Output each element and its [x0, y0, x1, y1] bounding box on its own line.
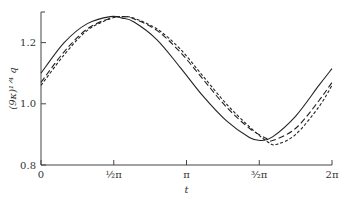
x-tick-label: ½π	[106, 169, 123, 180]
y-tick-label: 1.0	[20, 98, 36, 109]
y-tick-label: 1.2	[20, 37, 36, 48]
x-tick-label: 0	[38, 169, 44, 180]
data-series	[41, 16, 332, 145]
y-axis-label: (9κ)¹ᐟ⁴ q	[7, 67, 18, 109]
y-tick-label: 0.8	[20, 160, 36, 171]
x-tick-label: ³⁄₂π	[251, 169, 268, 180]
series-long-dash	[41, 16, 332, 141]
axis-labels: 0.81.01.20½ππ³⁄₂π2πt(9κ)¹ᐟ⁴ q	[7, 37, 339, 195]
series-solid	[41, 16, 332, 140]
x-axis-label: t	[184, 184, 189, 195]
series-short-dash	[41, 16, 332, 144]
x-tick-label: π	[183, 169, 190, 180]
x-tick-label: 2π	[326, 169, 339, 180]
line-chart: 0.81.01.20½ππ³⁄₂π2πt(9κ)¹ᐟ⁴ q	[0, 0, 346, 202]
axes	[41, 12, 332, 165]
